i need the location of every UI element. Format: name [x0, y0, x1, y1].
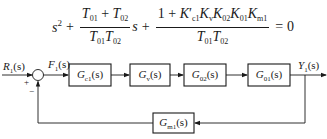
summing-junction: [33, 70, 44, 81]
feedback-return-line: [38, 82, 153, 124]
block-g01-label: G01(s): [248, 68, 290, 83]
block-gc1-label: Gc1(s): [69, 68, 111, 83]
output-label: Y1(s): [298, 59, 319, 74]
input-label: R1(s): [3, 60, 25, 75]
block-gv-label: Gv(s): [130, 68, 170, 83]
block-gm1-label: Gm1(s): [153, 116, 194, 131]
block-g02-label: G02(s): [184, 68, 226, 83]
minus-sign: −: [29, 86, 34, 96]
error-label: F1(s): [48, 58, 70, 73]
